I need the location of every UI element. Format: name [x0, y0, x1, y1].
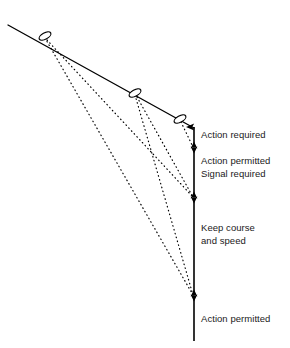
approach-track-line	[8, 25, 194, 128]
vessel-marker-2	[128, 87, 142, 99]
bearing-lines-group	[45, 38, 193, 295]
zone-label-action-required: Action required	[201, 129, 266, 142]
zone-label-line: Action permitted	[201, 155, 270, 168]
zone-label-line: Signal required	[201, 168, 270, 181]
zone-label-line: Action permitted	[201, 313, 270, 326]
zone-label-line: and speed	[201, 235, 255, 248]
diagram-canvas: Action required Action permitted Signal …	[0, 0, 290, 348]
bearing-line-2	[45, 38, 193, 295]
bearing-line-1	[47, 40, 193, 197]
bearing-line-4	[135, 95, 193, 295]
zone-label-action-permitted-signal-required: Action permitted Signal required	[201, 155, 270, 180]
vessel-marker-1	[38, 30, 52, 42]
zone-label-line: Action required	[201, 129, 266, 142]
zone-label-keep-course-and-speed: Keep course and speed	[201, 222, 255, 247]
zone-label-action-permitted: Action permitted	[201, 313, 270, 326]
zone-label-line: Keep course	[201, 222, 255, 235]
